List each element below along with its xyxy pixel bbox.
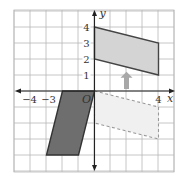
- axes: [15, 10, 175, 171]
- y-tick-label-1: 1: [83, 70, 89, 81]
- x-axis-label: x: [167, 92, 174, 105]
- x-tick-label--3: −3: [41, 94, 56, 105]
- translation-arrow: [121, 72, 133, 89]
- y-tick-label-4: 4: [83, 22, 89, 33]
- x-tick-label-4: 4: [155, 94, 161, 105]
- upper-parallelogram: [95, 27, 159, 75]
- y-tick-label-2: 2: [83, 54, 89, 65]
- dashed-parallelogram: [95, 91, 159, 139]
- x-tick-label--4: −4: [22, 94, 37, 105]
- y-tick-label-3: 3: [83, 38, 89, 49]
- origin-label: O: [82, 93, 91, 106]
- y-axis-label: y: [98, 7, 106, 20]
- coordinate-plane: 1234−4−34Oyx: [0, 0, 182, 187]
